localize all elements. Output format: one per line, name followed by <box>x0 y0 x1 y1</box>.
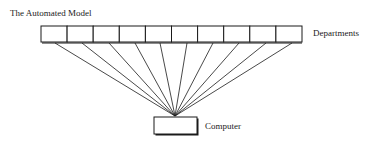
automated-model-diagram <box>0 0 368 147</box>
department-box <box>67 26 93 42</box>
department-box <box>250 26 276 42</box>
departments-strip <box>41 26 302 43</box>
connection-line <box>175 43 266 116</box>
department-box <box>172 26 198 42</box>
connection-line <box>160 43 175 116</box>
connection-line <box>109 43 175 116</box>
connection-lines <box>55 43 292 116</box>
department-box <box>276 26 302 42</box>
department-box <box>119 26 145 42</box>
connection-line <box>55 43 175 116</box>
department-box <box>224 26 250 42</box>
department-box <box>93 26 119 42</box>
connection-line <box>135 43 175 116</box>
department-box <box>198 26 224 42</box>
connection-line <box>175 43 292 116</box>
department-box <box>145 26 171 42</box>
department-box <box>41 26 67 42</box>
connection-line <box>82 43 175 116</box>
computer-box <box>154 117 199 136</box>
